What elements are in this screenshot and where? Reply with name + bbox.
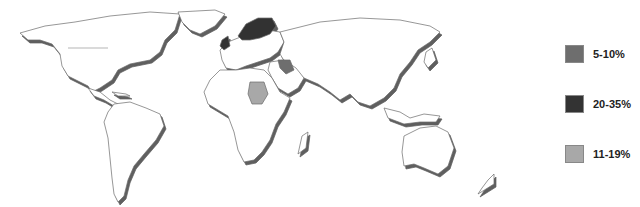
legend-item-5-10: 5-10% [565,45,625,63]
greenland [178,10,225,34]
legend-label: 20-35% [593,98,631,110]
world-map [0,8,545,207]
japan [424,48,436,68]
north-america [20,12,180,92]
new-zealand [478,174,494,194]
legend-label: 5-10% [593,48,625,60]
legend-swatch [565,45,584,63]
australia [402,126,454,174]
central-america [88,88,118,106]
map-title [0,0,640,3]
legend-swatch [565,145,584,163]
legend-swatch [565,95,584,113]
madagascar [298,132,308,154]
legend-label: 11-19% [593,148,630,160]
asia [280,18,440,106]
legend-item-11-19: 11-19% [565,145,630,163]
legend-item-20-35: 20-35% [565,95,631,113]
indonesia [384,108,440,124]
south-america [104,102,164,202]
